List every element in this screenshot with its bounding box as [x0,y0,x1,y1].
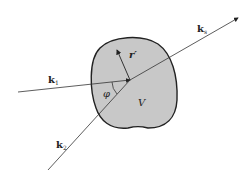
k1-label: k1 [48,75,59,86]
k2-label: k2 [56,140,67,151]
phi-label: φ [103,89,110,99]
ks-label-main: k [197,23,204,34]
k1-label-sub: 1 [55,79,59,86]
volume-label: V [138,98,145,108]
scattering-diagram: ks k1 k2 r′ φ V [0,0,247,179]
k2-label-sub: 2 [63,144,67,151]
k2-label-main: k [56,139,63,150]
diagram-canvas [0,0,247,179]
ks-label-sub: s [204,28,207,35]
k1-label-main: k [48,74,55,85]
r-prime-label: r′ [129,50,137,60]
ks-label: ks [197,24,207,35]
